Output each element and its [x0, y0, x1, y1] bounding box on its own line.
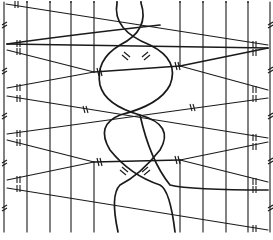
lace-diagram — [0, 0, 273, 240]
top-pins — [26, 1, 249, 3]
lace-pattern-svg — [0, 0, 273, 240]
